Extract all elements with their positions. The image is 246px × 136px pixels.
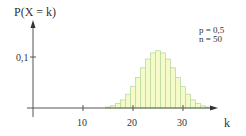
x-tick-label-30: 30: [177, 117, 187, 128]
histogram-bar: [116, 104, 121, 108]
x-tick-label-10: 10: [77, 117, 87, 128]
y-axis-arrow-icon: [31, 20, 36, 28]
x-axis-label: k: [224, 116, 230, 130]
histogram-bar: [166, 59, 171, 108]
x-tick-label-20: 20: [127, 117, 137, 128]
binomial-chart: P(X = k) 0,1 10 20 30 k p = 0,5 n = 50: [0, 0, 246, 136]
x-axis-arrow-icon: [210, 106, 218, 111]
histogram-bar: [191, 100, 196, 108]
histogram-bar: [171, 68, 176, 108]
y-tick-label: 0,1: [16, 52, 29, 63]
histogram-bar: [141, 68, 146, 108]
histogram-bar: [181, 87, 186, 108]
histogram-bar: [121, 100, 126, 108]
histogram-bar: [131, 87, 136, 108]
histogram-bar: [161, 53, 166, 108]
histogram-bar: [186, 94, 191, 108]
histogram-bar: [136, 78, 141, 108]
histogram-bar: [126, 94, 131, 108]
histogram-bars: [106, 51, 211, 108]
y-axis-label: P(X = k): [14, 5, 56, 19]
histogram-bar: [146, 59, 151, 108]
histogram-bar: [151, 53, 156, 108]
histogram-bar: [196, 104, 201, 108]
histogram-bar: [156, 51, 161, 108]
param-n: n = 50: [199, 34, 223, 44]
histogram-bar: [176, 78, 181, 108]
